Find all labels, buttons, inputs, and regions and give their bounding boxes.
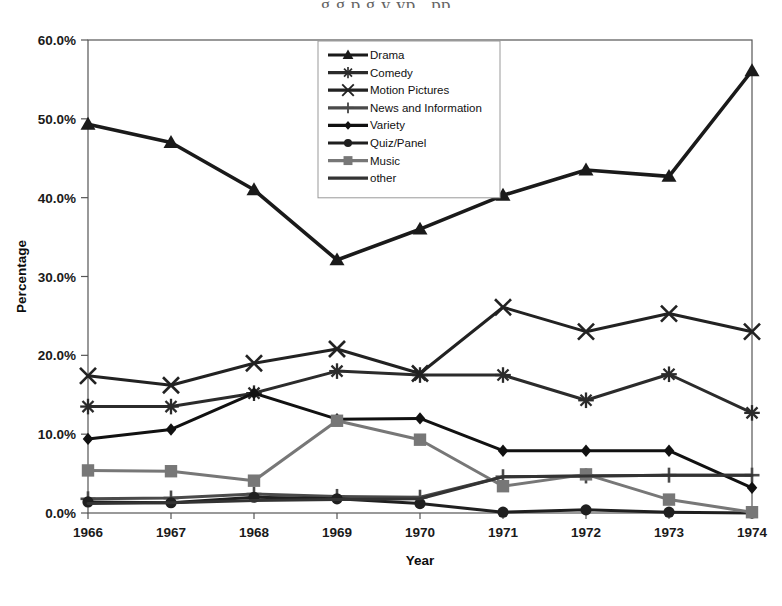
x-axis-tick-label: 1967 [156,525,186,540]
legend-item-label: Comedy [370,67,413,79]
data-point-asterisk [80,399,96,415]
data-point-square [331,415,343,427]
data-point-square [663,493,675,505]
y-axis-title: Percentage [14,240,29,313]
data-point-square [344,156,353,165]
legend-item-label: Quiz/Panel [370,137,426,149]
data-point-asterisk [495,367,511,383]
legend-item-label: Motion Pictures [370,84,450,96]
y-axis-tick-group: 0.0%10.0%20.0%30.0%40.0%50.0%60.0% [38,33,88,521]
data-point-diamond [166,423,177,435]
x-axis-tick-label: 1966 [73,525,104,540]
data-point-square [746,506,758,518]
legend-item-label: other [370,172,396,184]
data-point-diamond [664,445,675,457]
data-point-circle [344,139,352,147]
x-axis-tick-label: 1973 [654,525,685,540]
data-point-diamond [415,412,426,424]
x-axis-tick-label: 1968 [239,525,270,540]
data-point-asterisk [342,67,353,78]
data-point-diamond [581,445,592,457]
data-point-square [82,464,94,476]
data-point-square [580,468,592,480]
y-axis-tick-label: 20.0% [38,348,76,363]
legend-item-label: Variety [370,119,405,131]
data-point-asterisk [329,363,345,379]
legend-item-label: News and Information [370,102,482,114]
y-axis-tick-label: 50.0% [38,112,76,127]
data-point-square [165,465,177,477]
legend-item-label: Drama [370,49,405,61]
chart-legend: DramaComedyMotion PicturesNews and Infor… [318,41,500,198]
series-other [88,475,752,503]
y-axis-tick-label: 30.0% [38,270,76,285]
x-axis-tick-group: 196619671968196919701971197219731974 [73,513,768,540]
data-point-x [495,299,511,315]
x-axis-tick-label: 1974 [737,525,768,540]
data-point-triangle [745,63,760,76]
y-axis-tick-label: 10.0% [38,427,76,442]
data-point-diamond [498,445,509,457]
data-point-diamond [747,482,758,494]
data-point-square [497,480,509,492]
chart-figure: g g p g y yp , pp , 0.0%10.0%20.0%30.0%4… [0,0,782,606]
x-axis-tick-label: 1970 [405,525,435,540]
data-point-asterisk [163,399,179,415]
legend-box [318,41,500,198]
data-point-square [248,474,260,486]
x-axis-tick-label: 1972 [571,525,601,540]
line-chart-svg: 0.0%10.0%20.0%30.0%40.0%50.0%60.0% 19661… [0,0,782,606]
data-point-asterisk [744,405,760,421]
y-axis-tick-label: 40.0% [38,191,76,206]
x-axis-tick-label: 1971 [488,525,519,540]
data-point-circle [580,504,591,515]
data-point-circle [82,496,93,507]
data-point-asterisk [578,392,594,408]
x-axis-title: Year [406,553,435,568]
data-point-circle [663,507,674,518]
x-axis-tick-label: 1969 [322,525,352,540]
series-line [88,475,752,503]
legend-item-label: Music [370,155,400,167]
data-point-asterisk [661,366,677,382]
data-point-square [414,433,426,445]
y-axis-tick-label: 0.0% [45,506,76,521]
data-point-circle [497,507,508,518]
y-axis-tick-label: 60.0% [38,33,76,48]
